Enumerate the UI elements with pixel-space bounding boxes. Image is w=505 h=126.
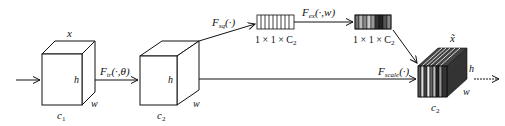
output-tensor-cube — [418, 48, 467, 97]
input-h-label: h — [74, 74, 79, 85]
squeeze-label: Fsq(·) — [211, 16, 235, 30]
output-c-label: c2 — [431, 101, 440, 115]
transform-label: Ftr(·,θ) — [99, 65, 130, 79]
feature-h-label: h — [168, 74, 173, 85]
excitation-weights-vector — [355, 15, 391, 29]
feature-tensor-cube — [140, 41, 199, 105]
output-w-label: w — [463, 86, 470, 97]
input-x-label: x — [66, 27, 72, 39]
squeezed-shape-label: 1 × 1 × C2 — [255, 34, 297, 47]
feature-w-label: w — [193, 98, 200, 109]
scale-label: Fscale(·) — [377, 65, 410, 79]
squeezed-vector — [257, 15, 294, 29]
excitation-label: Fex(·,w) — [301, 6, 335, 20]
output-x-label: x̃ — [449, 32, 456, 44]
output-h-label: h — [469, 63, 474, 74]
feature-c-label: c2 — [157, 109, 166, 123]
input-w-label: w — [91, 98, 98, 109]
weights-to-scale-arrow — [393, 30, 417, 63]
input-c-label: c1 — [57, 109, 66, 123]
se-block-diagram: x h w c1 Ftr(·,θ) h w c2 Fsq(·) 1 × 1 × … — [0, 0, 505, 126]
excited-shape-label: 1 × 1 × C2 — [353, 34, 395, 47]
input-tensor-cube — [42, 41, 95, 105]
